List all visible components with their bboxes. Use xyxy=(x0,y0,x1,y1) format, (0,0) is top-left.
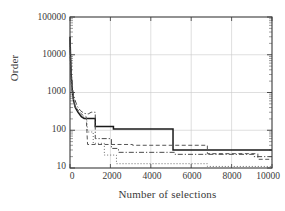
y-tick-label: 10 xyxy=(18,162,66,172)
data-series-layer xyxy=(70,37,272,167)
chart-figure: Order 100000 10000 1000 100 10 0 2000 40… xyxy=(0,0,285,211)
series-dotted xyxy=(70,48,272,166)
x-tick-label: 10000 xyxy=(248,172,285,182)
series-dash-dot xyxy=(70,39,272,157)
y-tick-label: 10000 xyxy=(18,50,66,60)
x-tick-label: 0 xyxy=(52,172,92,182)
x-tick-label: 8000 xyxy=(212,172,252,182)
series-solid xyxy=(70,37,272,150)
x-tick-label: 6000 xyxy=(172,172,212,182)
y-tick-label: 100000 xyxy=(18,13,66,23)
x-axis-title: Number of selections xyxy=(60,188,275,200)
x-tick-label: 2000 xyxy=(92,172,132,182)
y-tick-label: 100 xyxy=(18,125,66,135)
x-tick-label: 4000 xyxy=(132,172,172,182)
y-tick-label: 1000 xyxy=(18,87,66,97)
series-dashed xyxy=(70,43,272,159)
